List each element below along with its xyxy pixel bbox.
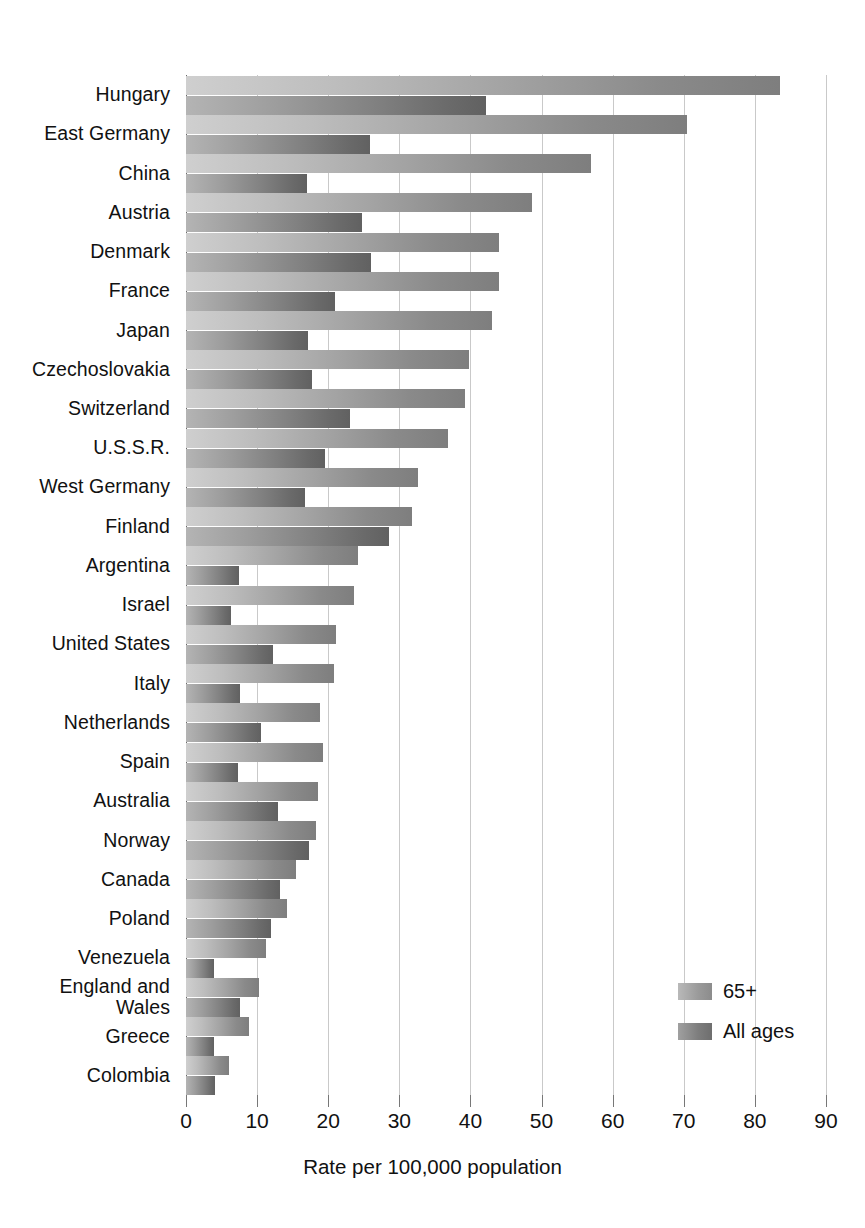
bar-65plus	[186, 899, 287, 918]
category-label: Japan	[0, 320, 178, 341]
category-label: Colombia	[0, 1065, 178, 1086]
bar-65plus	[186, 193, 532, 212]
x-tick-label: 50	[530, 1109, 553, 1133]
bar-row	[186, 350, 826, 390]
x-tick-label: 30	[388, 1109, 411, 1133]
bar-row	[186, 782, 826, 822]
bar-65plus	[186, 782, 318, 801]
category-label: Denmark	[0, 241, 178, 262]
x-tick-label: 80	[743, 1109, 766, 1133]
bar-all-ages	[186, 763, 238, 782]
bar-all-ages	[186, 253, 371, 272]
x-tick-mark	[399, 1095, 400, 1107]
x-tick-mark	[542, 1095, 543, 1107]
bar-65plus	[186, 1056, 229, 1075]
category-label: Israel	[0, 594, 178, 615]
category-label: Australia	[0, 790, 178, 811]
bar-all-ages	[186, 919, 271, 938]
x-tick-label: 20	[317, 1109, 340, 1133]
x-tick-mark	[328, 1095, 329, 1107]
category-label: Venezuela	[0, 947, 178, 968]
category-label: Greece	[0, 1026, 178, 1047]
bar-row	[186, 546, 826, 586]
category-label: Switzerland	[0, 398, 178, 419]
bar-all-ages	[186, 292, 335, 311]
bar-row	[186, 507, 826, 547]
x-tick-label: 70	[672, 1109, 695, 1133]
category-label: Austria	[0, 202, 178, 223]
bar-65plus	[186, 821, 316, 840]
category-label: Canada	[0, 869, 178, 890]
bar-all-ages	[186, 370, 312, 389]
bar-row	[186, 1056, 826, 1096]
category-label: Czechoslovakia	[0, 359, 178, 380]
bar-row	[186, 703, 826, 743]
bar-65plus	[186, 664, 334, 683]
bar-65plus	[186, 625, 336, 644]
bar-65plus	[186, 1017, 249, 1036]
legend-swatch-all-ages	[678, 1023, 712, 1040]
bar-all-ages	[186, 1037, 214, 1056]
category-label: Norway	[0, 830, 178, 851]
bar-all-ages	[186, 841, 309, 860]
x-tick-mark	[684, 1095, 685, 1107]
bar-65plus	[186, 154, 591, 173]
gridline-90	[826, 75, 827, 1095]
bar-row	[186, 821, 826, 861]
bar-all-ages	[186, 1076, 215, 1095]
category-label: Netherlands	[0, 712, 178, 733]
bar-row	[186, 586, 826, 626]
bar-all-ages	[186, 959, 214, 978]
bar-all-ages	[186, 213, 362, 232]
bar-all-ages	[186, 527, 389, 546]
bar-65plus	[186, 743, 323, 762]
bar-all-ages	[186, 331, 308, 350]
bar-row	[186, 193, 826, 233]
bar-row	[186, 468, 826, 508]
x-tick-label: 0	[180, 1109, 192, 1133]
x-axis-title: Rate per 100,000 population	[0, 1155, 865, 1179]
bar-row	[186, 743, 826, 783]
bar-all-ages	[186, 488, 305, 507]
category-label: U.S.S.R.	[0, 437, 178, 458]
category-label: Argentina	[0, 555, 178, 576]
bar-all-ages	[186, 409, 350, 428]
x-tick-mark	[826, 1095, 827, 1107]
category-label: China	[0, 163, 178, 184]
legend-swatch-65plus	[678, 983, 712, 1000]
legend-label-all-ages: All ages	[723, 1020, 794, 1043]
x-axis: 0102030405060708090	[186, 1095, 826, 1135]
bar-65plus	[186, 272, 499, 291]
bar-all-ages	[186, 135, 370, 154]
x-tick-label: 90	[814, 1109, 837, 1133]
category-label: France	[0, 280, 178, 301]
plot-area	[186, 75, 826, 1095]
bar-65plus	[186, 507, 412, 526]
legend-item-65plus: 65+	[678, 975, 853, 1007]
x-tick-mark	[613, 1095, 614, 1107]
bar-all-ages	[186, 684, 240, 703]
bar-65plus	[186, 350, 469, 369]
bar-65plus	[186, 939, 266, 958]
category-label: Finland	[0, 516, 178, 537]
bar-65plus	[186, 468, 418, 487]
bar-all-ages	[186, 566, 239, 585]
category-label: United States	[0, 633, 178, 654]
bar-all-ages	[186, 449, 325, 468]
bar-all-ages	[186, 880, 280, 899]
x-tick-label: 40	[459, 1109, 482, 1133]
bar-row	[186, 115, 826, 155]
bar-65plus	[186, 429, 448, 448]
category-label: East Germany	[0, 123, 178, 144]
bar-65plus	[186, 115, 687, 134]
bar-all-ages	[186, 723, 261, 742]
bar-row	[186, 389, 826, 429]
bar-row	[186, 429, 826, 469]
bar-row	[186, 860, 826, 900]
category-label: West Germany	[0, 476, 178, 497]
bar-row	[186, 664, 826, 704]
x-tick-mark	[470, 1095, 471, 1107]
bar-all-ages	[186, 998, 240, 1017]
bar-all-ages	[186, 606, 231, 625]
bar-65plus	[186, 311, 492, 330]
